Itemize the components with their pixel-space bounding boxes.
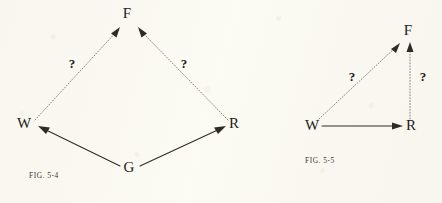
arrowhead-into-f-from-r-fig55: [407, 42, 414, 52]
figure-caption-5-5: FIG. 5-5: [305, 156, 335, 165]
figure-5-5-diagram: F W R ? ?: [0, 0, 442, 203]
node-label-w-fig55: W: [305, 117, 320, 133]
figure-page: F W R G ? ? F W R ? ? FIG. 5-4: [0, 0, 442, 203]
edge-w-to-f-fig55: [319, 43, 400, 119]
edge-w-to-r-fig55: [322, 123, 403, 130]
edge-label-question-vertical-fig55: ?: [420, 69, 427, 84]
arrowhead-into-r-fig55: [392, 123, 403, 130]
arrowhead-into-f-from-w-fig55: [391, 43, 400, 53]
figure-caption-5-4: FIG. 5-4: [29, 171, 59, 180]
edge-label-question-diagonal-fig55: ?: [349, 69, 356, 84]
edge-r-to-f-fig55: [407, 42, 414, 119]
node-label-r-fig55: R: [406, 117, 416, 133]
node-label-f-fig55: F: [404, 22, 412, 38]
